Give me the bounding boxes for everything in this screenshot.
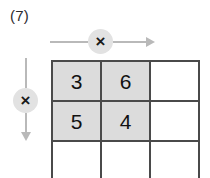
- vertical-arrow-line-top: [25, 58, 27, 88]
- vertical-arrow-line-bottom: [25, 113, 27, 132]
- horizontal-arrow-head-icon: [146, 37, 155, 47]
- horizontal-arrow-line-left: [50, 41, 88, 43]
- row-multiply-badge: ×: [13, 88, 38, 113]
- multiply-icon: ×: [21, 92, 31, 109]
- multiply-icon: ×: [96, 33, 106, 50]
- grid-row: [53, 142, 200, 178]
- grid-cell[interactable]: [151, 102, 200, 142]
- grid-cell[interactable]: [151, 62, 200, 102]
- multiplication-grid: 3 6 5 4: [51, 60, 200, 178]
- problem-number-label: (7): [10, 8, 29, 23]
- horizontal-arrow-line-right: [113, 41, 146, 43]
- grid-cell[interactable]: [53, 142, 102, 178]
- grid-cell[interactable]: 5: [53, 102, 102, 142]
- worksheet-problem: (7) × × 3 6 5 4: [0, 0, 210, 178]
- grid-row: 5 4: [53, 102, 200, 142]
- grid-row: 3 6: [53, 62, 200, 102]
- grid-cell[interactable]: [151, 142, 200, 178]
- grid-cell[interactable]: [102, 142, 151, 178]
- grid-cell[interactable]: 3: [53, 62, 102, 102]
- column-multiply-badge: ×: [88, 29, 113, 54]
- grid-cell[interactable]: 6: [102, 62, 151, 102]
- vertical-arrow-head-icon: [21, 132, 31, 141]
- grid-cell[interactable]: 4: [102, 102, 151, 142]
